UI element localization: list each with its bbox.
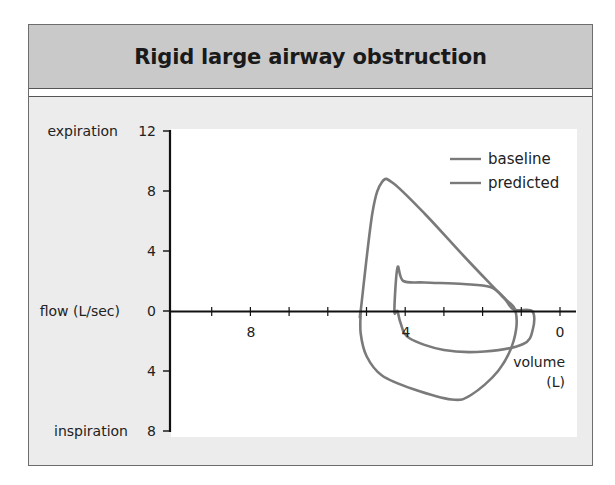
y-annotation-expiration: expiration [47,123,118,139]
y-tick-label: 4 [147,243,156,259]
x-tick-label-0: 0 [556,324,565,340]
x-tick-label-8: 8 [247,324,256,340]
x-tick-label-4: 4 [402,324,411,340]
y-tick-label: 8 [147,423,156,439]
legend-label-baseline: baseline [488,150,551,168]
y-axis-label: flow (L/sec) [40,303,120,319]
y-tick-label: 0 [147,303,156,319]
x-axis-unit: (L) [546,374,565,390]
flow-volume-chart: 1284048 expiration flow (L/sec) inspirat… [0,0,615,485]
y-annotation-inspiration: inspiration [54,423,128,439]
y-tick-label: 4 [147,363,156,379]
y-tick-label: 8 [147,183,156,199]
y-tick-label: 12 [138,123,156,139]
legend-label-predicted: predicted [488,174,559,192]
y-axis: 1284048 expiration flow (L/sec) inspirat… [40,123,170,439]
x-axis-label: volume [513,354,565,370]
